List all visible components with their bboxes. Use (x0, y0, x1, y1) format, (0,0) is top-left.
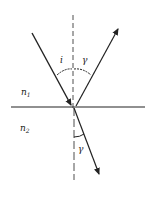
angle-arc-refracted (74, 134, 84, 137)
label-reflected-angle: γ (82, 55, 88, 65)
refraction-diagram: i γ γ n1 n2 (0, 0, 157, 198)
refracted-ray (74, 108, 99, 174)
label-medium-1: n1 (21, 87, 31, 98)
angle-arc-incident (57, 69, 72, 75)
angle-arc-reflected (74, 69, 91, 75)
incident-ray (32, 33, 71, 105)
label-medium-2: n2 (20, 123, 30, 134)
label-incident-angle: i (60, 55, 63, 65)
label-refracted-angle: γ (78, 144, 84, 154)
reflected-ray (76, 29, 118, 106)
